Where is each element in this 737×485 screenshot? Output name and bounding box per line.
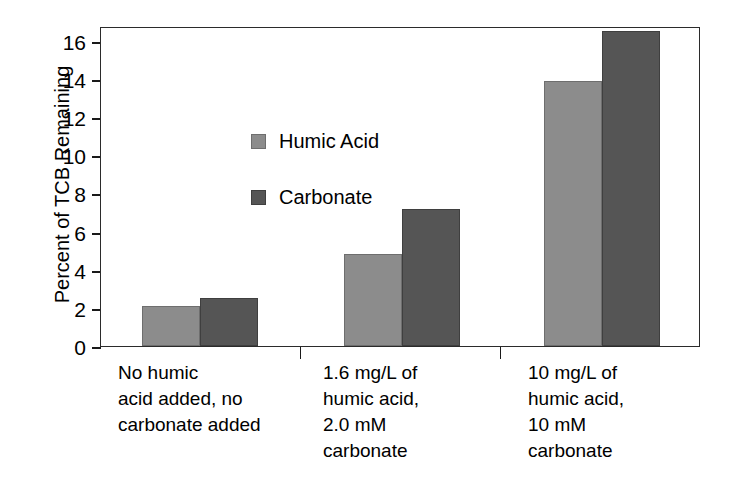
x-tick-separator-1 xyxy=(300,347,301,359)
legend-label-humic-acid: Humic Acid xyxy=(279,130,379,153)
bar-humic-group-2 xyxy=(344,254,402,346)
legend-swatch-icon-carbonate xyxy=(251,190,266,205)
bar-carbonate-group-1 xyxy=(200,298,258,346)
y-tick-label-6: 6 xyxy=(30,223,86,244)
bar-carbonate-group-2 xyxy=(402,209,460,346)
bar-humic-group-3 xyxy=(544,81,602,346)
y-tick-label-0: 0 xyxy=(30,337,86,358)
legend-label-carbonate: Carbonate xyxy=(279,186,372,209)
y-tick-label-14: 14 xyxy=(30,70,86,91)
y-tick-label-12: 12 xyxy=(30,108,86,129)
x-group-label-2: 1.6 mg/L of humic acid, 2.0 mM carbonate xyxy=(323,360,513,464)
y-tick-label-16: 16 xyxy=(30,32,86,53)
legend-item-humic-acid: Humic Acid xyxy=(251,126,379,156)
x-group-label-3: 10 mg/L of humic acid, 10 mM carbonate xyxy=(528,360,718,464)
x-group-label-1: No humic acid added, no carbonate added xyxy=(118,360,308,438)
bar-carbonate-group-3 xyxy=(602,31,660,346)
y-tick-label-10: 10 xyxy=(30,146,86,167)
y-tick-label-8: 8 xyxy=(30,184,86,205)
y-tick-label-2: 2 xyxy=(30,299,86,320)
legend-item-carbonate: Carbonate xyxy=(251,182,379,212)
x-tick-separator-2 xyxy=(500,347,501,359)
bar-humic-group-1 xyxy=(142,306,200,346)
legend-swatch-icon-humic-acid xyxy=(251,134,266,149)
plot-area: Humic Acid Carbonate xyxy=(100,27,700,347)
bar-chart: Percent of TCB Remaining 16 14 12 10 8 6… xyxy=(0,0,737,485)
legend: Humic Acid Carbonate xyxy=(251,126,379,238)
y-tick-mark-0 xyxy=(92,347,101,349)
y-tick-label-4: 4 xyxy=(30,261,86,282)
